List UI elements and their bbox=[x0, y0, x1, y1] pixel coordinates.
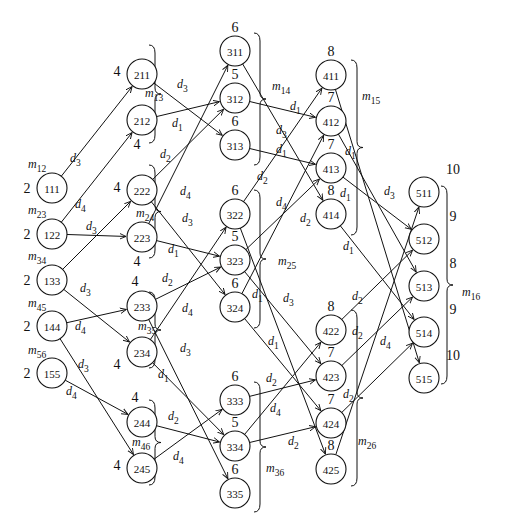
node-425: 4258 bbox=[316, 438, 346, 484]
node-weight: 5 bbox=[232, 67, 239, 82]
edge-label-322-425: d3 bbox=[283, 291, 294, 308]
brace-m14 bbox=[254, 33, 266, 165]
node-id: 333 bbox=[227, 395, 244, 407]
node-id: 144 bbox=[44, 321, 61, 333]
left-label-m34: m34 bbox=[28, 249, 46, 266]
brace-label-m35: m35 bbox=[138, 319, 156, 336]
edge-label-244-334: d2 bbox=[168, 409, 179, 426]
edge-334-422 bbox=[245, 342, 321, 434]
left-label-m23: m23 bbox=[28, 203, 46, 220]
edge-label-155-244: d4 bbox=[66, 384, 77, 401]
node-334: 3345 bbox=[220, 415, 250, 461]
node-id: 223 bbox=[134, 232, 151, 244]
node-weight: 7 bbox=[328, 345, 335, 360]
node-id: 313 bbox=[227, 140, 244, 152]
edge-label-413-512: d1 bbox=[340, 186, 351, 203]
left-label-m12: m12 bbox=[28, 157, 46, 174]
node-weight: 10 bbox=[446, 348, 460, 363]
node-weight: 4 bbox=[114, 180, 121, 195]
edge-label-212-312: d1 bbox=[172, 116, 183, 133]
edge-label-222-312: d2 bbox=[160, 147, 171, 164]
node-weight: 6 bbox=[232, 462, 239, 477]
node-id: 122 bbox=[44, 229, 61, 241]
edge-413-512 bbox=[343, 177, 411, 229]
node-324: 3246 bbox=[220, 276, 250, 322]
node-weight: 4 bbox=[114, 357, 121, 372]
node-322: 3226 bbox=[220, 183, 250, 229]
node-id: 514 bbox=[416, 327, 433, 339]
node-id: 324 bbox=[227, 302, 244, 314]
node-weight: 6 bbox=[232, 114, 239, 129]
edge-label-211-313: d3 bbox=[177, 77, 188, 94]
node-weight: 5 bbox=[232, 415, 239, 430]
edge-122-212 bbox=[61, 133, 132, 223]
layered-graph-diagram: d3d4d3d3d4d3d4d1d3d2d4d3d1d2d4d3d1d2d4d1… bbox=[0, 0, 508, 531]
node-233: 2334 bbox=[127, 274, 157, 321]
node-id: 155 bbox=[44, 368, 61, 380]
edge-312-412 bbox=[250, 101, 316, 117]
node-weight: 2 bbox=[24, 227, 31, 242]
node-513: 5138 bbox=[409, 256, 457, 301]
node-weight: 7 bbox=[328, 90, 335, 105]
node-id: 211 bbox=[134, 69, 150, 81]
node-weight: 5 bbox=[232, 229, 239, 244]
node-245: 2454 bbox=[114, 453, 158, 483]
node-id: 414 bbox=[323, 209, 340, 221]
edge-223-323 bbox=[157, 241, 220, 257]
node-412: 4127 bbox=[316, 90, 346, 136]
node-312: 3125 bbox=[220, 67, 250, 113]
edge-label-144-245: d3 bbox=[78, 357, 89, 374]
node-514: 5149 bbox=[409, 302, 457, 347]
edge-label-323-423: d1 bbox=[252, 287, 263, 304]
node-id: 413 bbox=[323, 163, 340, 175]
edge-label-323-413: d2 bbox=[300, 211, 311, 228]
node-244: 2444 bbox=[127, 390, 157, 437]
edge-label-411-515: d3 bbox=[384, 184, 395, 201]
node-id: 411 bbox=[323, 70, 339, 82]
node-weight: 8 bbox=[328, 183, 335, 198]
graph-svg: d3d4d3d3d4d3d4d1d3d2d4d3d1d2d4d3d1d2d4d1… bbox=[0, 0, 508, 531]
node-weight: 2 bbox=[24, 181, 31, 196]
node-id: 311 bbox=[227, 46, 243, 58]
edge-label-324-412: d4 bbox=[276, 195, 287, 212]
node-weight: 6 bbox=[232, 276, 239, 291]
node-weight: 4 bbox=[132, 274, 139, 289]
node-weight: 8 bbox=[328, 438, 335, 453]
node-333: 3336 bbox=[220, 369, 250, 415]
edge-label-122-212: d4 bbox=[75, 197, 86, 214]
node-id: 234 bbox=[134, 347, 151, 359]
edge-label-312-412: d1 bbox=[290, 99, 301, 116]
brace-label-m24: m24 bbox=[136, 206, 154, 223]
brace-label-m26: m26 bbox=[358, 434, 376, 451]
edge-label-133-234: d3 bbox=[80, 281, 91, 298]
node-212: 2124 bbox=[127, 105, 157, 152]
node-511: 51110 bbox=[409, 162, 460, 207]
node-222: 2224 bbox=[114, 175, 158, 205]
node-id: 511 bbox=[416, 187, 432, 199]
node-weight: 10 bbox=[446, 162, 460, 177]
nodes-layer: 1112122213321442155221142124222422342334… bbox=[24, 20, 461, 508]
node-id: 425 bbox=[323, 464, 340, 476]
node-id: 412 bbox=[323, 116, 340, 128]
node-422: 4228 bbox=[316, 299, 346, 345]
left-label-m56: m56 bbox=[28, 343, 46, 360]
edge-label-422-512: d2 bbox=[352, 289, 363, 306]
node-223: 2234 bbox=[127, 222, 157, 269]
edge-label-425-511: d4 bbox=[380, 334, 391, 351]
edge-label-245-333: d4 bbox=[173, 449, 184, 466]
node-weight: 2 bbox=[24, 273, 31, 288]
node-weight: 8 bbox=[328, 44, 335, 59]
node-id: 212 bbox=[134, 115, 151, 127]
edge-label-334-424: d2 bbox=[288, 434, 299, 451]
edge-414-514 bbox=[340, 226, 414, 320]
edge-334-424 bbox=[250, 427, 316, 443]
node-id: 335 bbox=[227, 488, 244, 500]
edge-324-424 bbox=[245, 319, 321, 411]
node-weight: 7 bbox=[328, 137, 335, 152]
node-weight: 6 bbox=[232, 369, 239, 384]
node-id: 513 bbox=[416, 281, 433, 293]
node-weight: 2 bbox=[24, 366, 31, 381]
node-313: 3136 bbox=[220, 114, 250, 160]
node-weight: 7 bbox=[328, 392, 335, 407]
edge-323-423 bbox=[245, 272, 321, 364]
